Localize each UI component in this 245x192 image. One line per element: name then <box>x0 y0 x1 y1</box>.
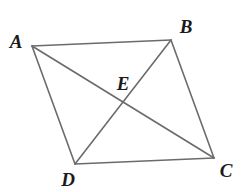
segment-cd <box>75 158 214 164</box>
vertex-label-b: B <box>180 17 193 36</box>
geometry-figure: A B C D E <box>0 0 245 192</box>
segment-da <box>32 46 75 164</box>
vertex-label-d: D <box>61 170 75 189</box>
segment-bd <box>75 40 171 164</box>
vertex-label-e: E <box>117 74 130 93</box>
parallelogram-diagonals <box>32 40 214 164</box>
geometry-canvas <box>0 0 245 192</box>
segment-ab <box>32 40 171 46</box>
vertex-label-a: A <box>10 32 23 51</box>
vertex-label-c: C <box>220 161 233 180</box>
segment-bc <box>171 40 214 158</box>
